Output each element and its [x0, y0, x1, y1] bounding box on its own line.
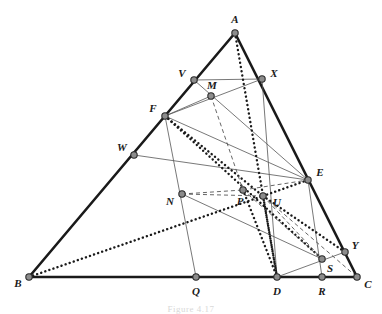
point-X[interactable] — [259, 76, 265, 82]
figure-caption: Figure 4.17 — [0, 305, 382, 314]
geometry-canvas — [0, 0, 382, 314]
point-V[interactable] — [191, 77, 197, 83]
segment-line-D-Y — [277, 252, 345, 277]
point-label-S: S — [327, 263, 333, 274]
point-label-M: M — [207, 80, 217, 91]
point-C[interactable] — [354, 274, 360, 280]
point-label-N: N — [166, 196, 174, 207]
segment-line-V-X — [194, 79, 262, 80]
point-Q[interactable] — [193, 274, 199, 280]
point-E[interactable] — [305, 177, 311, 183]
point-label-F: F — [149, 103, 156, 114]
segment-line-X-D — [262, 79, 277, 277]
point-label-D: D — [273, 286, 281, 297]
segment-dashed-P-E — [243, 180, 308, 190]
geometry-figure: ABCVXMFWENPUYSQDR Figure 4.17 — [0, 0, 382, 314]
point-M[interactable] — [208, 93, 214, 99]
point-label-E: E — [316, 167, 323, 178]
point-A[interactable] — [232, 30, 238, 36]
point-label-P: P — [237, 196, 244, 207]
point-B[interactable] — [26, 274, 32, 280]
point-label-X: X — [270, 68, 277, 79]
point-R[interactable] — [319, 274, 325, 280]
segment-cevian-W-E — [134, 155, 308, 180]
point-Y[interactable] — [342, 249, 348, 255]
point-W[interactable] — [131, 152, 137, 158]
segment-line-N-S — [182, 194, 322, 259]
segment-side-AC — [235, 33, 357, 277]
point-F[interactable] — [162, 113, 168, 119]
point-label-Q: Q — [192, 286, 200, 297]
point-D[interactable] — [274, 274, 280, 280]
point-U[interactable] — [260, 193, 266, 199]
point-label-V: V — [178, 68, 185, 79]
segment-dashed-M-P — [211, 96, 243, 190]
point-S[interactable] — [319, 256, 325, 262]
point-label-R: R — [318, 286, 325, 297]
segment-layer — [29, 33, 357, 277]
point-N[interactable] — [179, 191, 185, 197]
point-label-C: C — [364, 279, 371, 290]
point-label-A: A — [231, 14, 238, 25]
point-label-W: W — [117, 142, 127, 153]
point-label-B: B — [14, 278, 21, 289]
segment-dashed-N-P — [182, 190, 243, 194]
point-P[interactable] — [240, 187, 246, 193]
point-label-U: U — [273, 197, 281, 208]
segment-dashed-P-S — [243, 190, 322, 259]
point-label-Y: Y — [352, 240, 359, 251]
vertex-layer — [26, 30, 360, 280]
